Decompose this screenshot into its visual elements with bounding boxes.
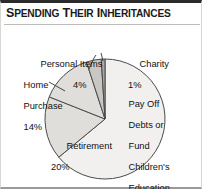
label-charity-name: Charity bbox=[140, 59, 169, 69]
label-payoff-line1: Pay Off bbox=[129, 99, 160, 109]
page-title: SPENDING THEIR INHERITANCES bbox=[6, 6, 198, 22]
label-payoff-line3: Fund bbox=[129, 141, 150, 151]
label-personal-items-name: Personal Items bbox=[41, 59, 103, 69]
label-retirement-pct: 20% bbox=[51, 162, 112, 172]
label-payoff-line2: Debts or bbox=[129, 120, 164, 130]
label-retirement-name: Retirement bbox=[67, 141, 112, 151]
label-payoff: Pay Off Debts or Fund Children's Educati… bbox=[113, 89, 170, 189]
label-home-purchase-pct: 14% bbox=[24, 122, 43, 132]
title-word-1-cap: S bbox=[6, 6, 14, 20]
chart-card: SPENDING THEIR INHERITANCES bbox=[0, 0, 202, 189]
title-word-2-rest: HEIR bbox=[70, 8, 94, 19]
label-payoff-line4: Children's bbox=[129, 162, 170, 172]
label-retirement: Retirement 20% bbox=[51, 131, 112, 189]
label-home-purchase-line1: Home bbox=[24, 80, 49, 90]
title-word-3-rest: NHERITANCES bbox=[100, 8, 171, 19]
title-word-1-rest: PENDING bbox=[14, 8, 59, 19]
title-word-2-cap: T bbox=[62, 6, 69, 20]
label-payoff-line5: Education bbox=[129, 183, 170, 189]
pie-chart: Personal Items 4% Home Purchase 14% Char… bbox=[1, 25, 202, 189]
label-home-purchase-line2: Purchase bbox=[24, 101, 63, 111]
